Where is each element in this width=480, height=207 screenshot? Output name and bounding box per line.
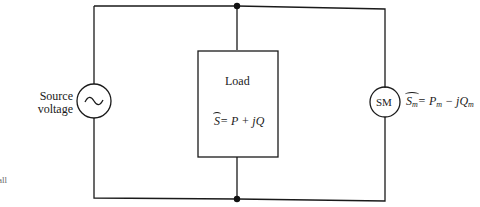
junction-node-bottom: [234, 196, 240, 202]
sm-power-equation: Sm= Pm − jQm: [406, 95, 474, 111]
cropped-margin-text: all: [0, 174, 7, 187]
sm-label: SM: [376, 96, 392, 109]
source-voltage-label: Source voltage: [37, 90, 73, 116]
load-title: Load: [225, 75, 250, 88]
junction-node-top: [234, 3, 240, 9]
load-power-equation: S= P + jQ: [214, 115, 264, 128]
